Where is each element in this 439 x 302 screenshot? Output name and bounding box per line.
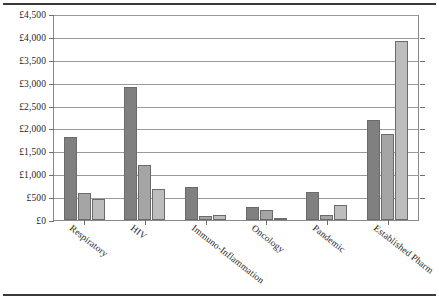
y-axis-tick-right — [420, 61, 425, 62]
bar — [246, 207, 259, 220]
bar — [124, 87, 137, 220]
chart-figure: £4,500£4,000£3,500£3,000£2,500£2,000£1,5… — [0, 0, 439, 302]
y-axis-tick-label: £3,000 — [19, 79, 46, 89]
x-axis-label: Established Pharm — [371, 223, 434, 276]
y-axis-tick-label: £2,500 — [19, 102, 46, 112]
x-axis-label: Pandemic — [311, 223, 347, 254]
y-axis-tick-right — [420, 38, 425, 39]
bar-group — [185, 15, 226, 220]
plot-area: £4,500£4,000£3,500£3,000£2,500£2,000£1,5… — [53, 15, 419, 221]
y-axis-tick-right — [420, 198, 425, 199]
top-rule — [3, 3, 436, 5]
bar-group — [64, 15, 105, 220]
bar — [185, 187, 198, 220]
y-axis-tick-label: £3,500 — [19, 56, 46, 66]
bar-group — [124, 15, 165, 220]
bar — [92, 199, 105, 220]
bar — [64, 137, 77, 220]
bar — [320, 215, 333, 220]
y-axis-tick-label: £4,000 — [19, 33, 46, 43]
bottom-rule — [3, 294, 436, 296]
bar — [199, 216, 212, 220]
x-axis-label: HIV — [129, 223, 149, 241]
bar-group — [306, 15, 347, 220]
y-axis-tick-right — [420, 129, 425, 130]
bar — [367, 120, 380, 220]
bar — [78, 193, 91, 220]
y-axis-tick-label: £0 — [36, 216, 46, 226]
bar — [306, 192, 319, 220]
y-axis-tick-right — [420, 84, 425, 85]
bar — [213, 215, 226, 220]
bar-groups — [54, 15, 418, 220]
bar — [138, 165, 151, 220]
y-axis-tick-label: £2,000 — [19, 124, 46, 134]
y-axis-tick-label: £1,500 — [19, 147, 46, 157]
x-axis-labels: RespiratoryHIVImmuno-InflammationOncolog… — [53, 223, 419, 293]
y-axis-tick — [49, 221, 54, 222]
bar — [334, 205, 347, 220]
y-axis-tick-right — [420, 175, 425, 176]
x-axis-label: Oncology — [250, 223, 286, 254]
bar — [274, 218, 287, 220]
y-axis-tick-label: £1,000 — [19, 170, 46, 180]
bar — [381, 134, 394, 220]
x-axis-label: Respiratory — [68, 223, 110, 259]
y-axis-tick-right — [420, 107, 425, 108]
bar-group — [246, 15, 287, 220]
bar-group — [367, 15, 408, 220]
y-axis-tick-label: £500 — [27, 193, 46, 203]
bar — [152, 189, 165, 220]
y-axis-tick-label: £4,500 — [19, 10, 46, 20]
bar — [260, 210, 273, 220]
plot-wrapper: £4,500£4,000£3,500£3,000£2,500£2,000£1,5… — [53, 15, 419, 221]
bar — [395, 41, 408, 220]
y-axis-tick-right — [420, 152, 425, 153]
